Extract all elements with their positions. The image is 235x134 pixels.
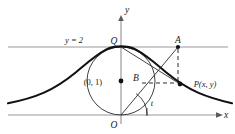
label-line-y-equals-2: y = 2 — [64, 35, 84, 45]
label-circle-center: (0, 1) — [84, 77, 103, 87]
label-origin: O — [111, 120, 118, 130]
label-angle-t: t — [151, 98, 154, 108]
agnesi-curve — [8, 46, 232, 103]
label-point-P: P(x, y) — [193, 79, 217, 89]
segment-QP — [121, 47, 180, 84]
x-axis-arrow-icon — [216, 112, 223, 118]
agnesi-diagram: y x O y = 2 Q (0, 1) B A P(x, y) t — [0, 0, 235, 134]
label-point-Q: Q — [111, 36, 118, 46]
point-marker-center — [119, 79, 124, 84]
label-x-axis: x — [223, 110, 229, 120]
point-marker-A — [176, 45, 180, 49]
label-point-B: B — [133, 73, 139, 83]
label-y-axis: y — [124, 5, 130, 15]
angle-arc-t — [136, 94, 147, 115]
figure-root: y x O y = 2 Q (0, 1) B A P(x, y) t — [0, 0, 235, 134]
point-marker-P — [178, 82, 183, 87]
ray-OA — [121, 47, 178, 115]
label-point-A: A — [174, 35, 181, 45]
y-axis-arrow-icon — [118, 15, 124, 21]
